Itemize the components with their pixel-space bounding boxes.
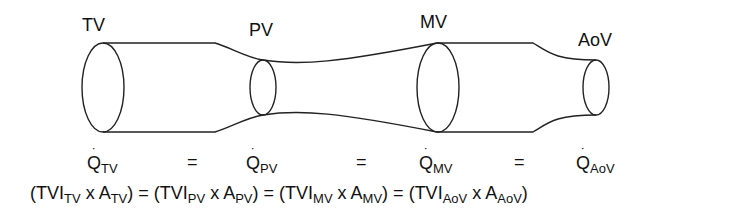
flow-term-pv: ˙QPV <box>246 154 277 172</box>
flow-equals-3: = <box>514 153 525 171</box>
product-equation: (TVITV x ATV) = (TVIPV x APV) = (TVIMV x… <box>30 184 528 202</box>
product-term-aov: (TVIAoV x AAoV) <box>409 183 528 203</box>
mv-ellipse <box>417 43 459 132</box>
product-term-tv: (TVITV x ATV) <box>30 183 133 203</box>
flow-equals-1: = <box>187 153 198 171</box>
tv-ellipse <box>82 43 124 132</box>
tube-bottom-outline <box>103 112 596 132</box>
aov-label: AoV <box>578 31 612 49</box>
pv-label: PV <box>249 21 273 39</box>
flow-equals-2: = <box>356 153 367 171</box>
aov-ellipse <box>583 60 609 115</box>
tv-label: TV <box>82 16 105 34</box>
pv-ellipse <box>250 60 276 115</box>
flow-term-tv: ˙QTV <box>87 154 118 172</box>
flow-term-aov: ˙QAoV <box>576 154 615 172</box>
product-term-pv: (TVIPV x APV) <box>154 183 259 203</box>
tube-top-outline <box>103 43 596 63</box>
product-term-mv: (TVIMV x AMV) <box>279 183 388 203</box>
flow-term-mv: ˙QMV <box>419 154 453 172</box>
mv-label: MV <box>420 13 447 31</box>
